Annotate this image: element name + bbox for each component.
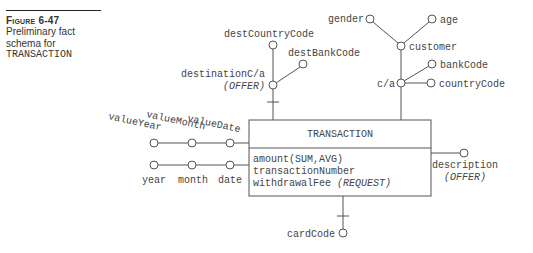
node-month: [188, 161, 196, 169]
label-gender: gender: [328, 14, 364, 25]
label-bank-code: bankCode: [440, 60, 488, 71]
node-dest-bank-code: [299, 60, 307, 68]
node-year: [150, 161, 158, 169]
measure-amount: amount(SUM,AVG): [253, 154, 343, 165]
label-age: age: [440, 15, 458, 26]
fact-box: TRANSACTION amount(SUM,AVG) transactionN…: [249, 120, 431, 196]
label-year: year: [142, 175, 166, 186]
label-customer: customer: [409, 42, 457, 53]
node-dest-country-code: [269, 41, 277, 49]
node-date: [226, 161, 234, 169]
node-destination-ca: [269, 81, 277, 89]
label-destination-ca-note: (OFFER): [223, 81, 265, 92]
label-date: date: [218, 175, 242, 186]
measure-withdrawal-fee: withdrawalFee (REQUEST): [253, 178, 391, 189]
node-ca: [397, 79, 405, 87]
fact-name: TRANSACTION: [307, 129, 373, 140]
label-dest-bank-code: destBankCode: [288, 48, 360, 59]
node-age: [428, 15, 436, 23]
label-value-date: valueDate: [186, 113, 241, 135]
label-card-code: cardCode: [287, 229, 335, 240]
node-gender: [366, 15, 374, 23]
node-value-year: [150, 139, 158, 147]
node-country-code: [427, 79, 435, 87]
node-description: [460, 149, 468, 157]
node-value-date: [226, 139, 234, 147]
measure-transaction-number: transactionNumber: [253, 166, 355, 177]
label-month: month: [178, 175, 208, 186]
label-country-code: countryCode: [439, 79, 505, 90]
node-customer: [397, 42, 405, 50]
label-description-note: (OFFER): [444, 172, 486, 183]
node-bank-code: [428, 60, 436, 68]
node-value-month: [188, 139, 196, 147]
label-ca: c/a: [377, 79, 395, 90]
node-card-code: [339, 229, 347, 237]
label-dest-country-code: destCountryCode: [224, 29, 314, 40]
label-destination-ca: destinationC/a: [181, 69, 265, 80]
fact-schema-diagram: TRANSACTION amount(SUM,AVG) transactionN…: [0, 0, 533, 253]
label-description: description: [432, 160, 498, 171]
